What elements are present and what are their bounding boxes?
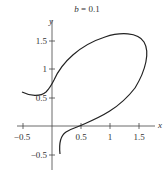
x-tick-label: 1 [108,132,113,142]
y-ticks: 1.5 1 0.5 −0.5 [31,36,55,160]
curve-lower-branch [60,88,135,154]
chart-title: b = 0.1 [74,4,99,14]
x-tick-label: 0.5 [75,132,87,142]
x-tick-label: −0.5 [14,132,31,142]
x-tick-label: 1.5 [133,132,145,142]
y-tick-label: 1 [43,64,48,74]
chart: b = 0.1 x y −0.5 0.5 1 1.5 1.5 1 0.5 −0.… [0,0,168,178]
y-tick-label: −0.5 [31,150,48,160]
y-axis-label: y [48,16,53,26]
x-axis-label: x [157,120,162,130]
y-tick-label: 1.5 [36,36,48,46]
